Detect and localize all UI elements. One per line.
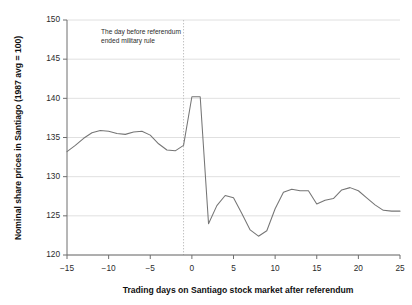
x-tick-label--10: −10 xyxy=(102,263,116,273)
y-tick-label-140: 140 xyxy=(46,93,60,103)
y-tick-label-120: 120 xyxy=(46,249,60,259)
y-axis-title: Nominal share prices in Santiago (1987 a… xyxy=(13,36,23,240)
annotation-line-2: ended military rule xyxy=(101,37,155,45)
x-tick-label-10: 10 xyxy=(271,263,281,273)
x-tick-label--15: −15 xyxy=(60,263,74,273)
x-tick-label-20: 20 xyxy=(354,263,364,273)
x-tick-label-15: 15 xyxy=(312,263,322,273)
y-tick-label-125: 125 xyxy=(46,210,60,220)
annotation-line-1: The day before referendum xyxy=(101,28,181,36)
chart-container: 120125130135140145150 −15−10−50510152025… xyxy=(0,0,412,305)
x-tick-label-0: 0 xyxy=(190,263,195,273)
y-tick-label-130: 130 xyxy=(46,171,60,181)
share-price-line-chart: 120125130135140145150 −15−10−50510152025… xyxy=(0,0,412,305)
y-tick-label-145: 145 xyxy=(46,53,60,63)
chart-background xyxy=(0,0,412,305)
y-tick-label-150: 150 xyxy=(46,14,60,24)
x-axis-title: Trading days on Santiago stock market af… xyxy=(123,285,354,295)
x-tick-label-25: 25 xyxy=(395,263,405,273)
x-tick-label-5: 5 xyxy=(231,263,236,273)
y-tick-label-135: 135 xyxy=(46,132,60,142)
x-tick-label--5: −5 xyxy=(146,263,156,273)
